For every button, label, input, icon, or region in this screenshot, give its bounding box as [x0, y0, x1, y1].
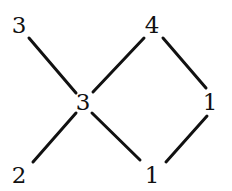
graph-edge [93, 38, 144, 92]
edge-layer [0, 0, 232, 191]
node-label: 3 [76, 91, 91, 114]
node-label: 1 [203, 91, 218, 114]
node-label: 2 [12, 164, 27, 187]
graph-edge [33, 113, 76, 162]
graph-edge [29, 38, 76, 93]
poset-diagram: 343121 [0, 0, 232, 191]
graph-edge [92, 113, 140, 160]
graph-edge [166, 116, 207, 162]
node-label: 4 [145, 14, 160, 37]
node-label: 1 [145, 164, 160, 187]
graph-edge [163, 38, 206, 88]
node-label: 3 [12, 14, 27, 37]
